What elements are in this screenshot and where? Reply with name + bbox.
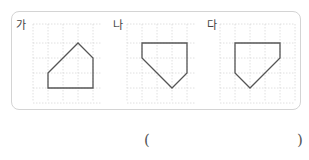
answer-blank[interactable] xyxy=(158,132,296,152)
figure-0 xyxy=(33,24,101,103)
pentagon-shape xyxy=(235,43,280,88)
figure-1 xyxy=(127,24,196,103)
figure-2 xyxy=(220,24,295,103)
answer-open-paren: ( xyxy=(144,133,150,148)
answer-close-paren: ) xyxy=(297,133,303,148)
pentagon-shape xyxy=(142,43,187,88)
pentagon-shape xyxy=(48,43,93,88)
